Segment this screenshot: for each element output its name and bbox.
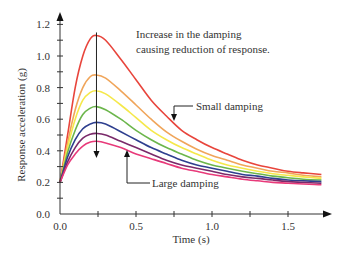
- y-tick-label: 0.6: [36, 113, 50, 125]
- y-tick-label: 0.0: [36, 208, 50, 220]
- x-tick-label: 1.0: [205, 220, 219, 232]
- x-axis-arrow-icon: [323, 211, 332, 218]
- annotation-line2: causing reduction of response.: [136, 43, 270, 55]
- y-axis-arrow-icon: [57, 12, 64, 21]
- y-tick-label: 0.2: [36, 176, 50, 188]
- y-axis-title: Response acceleration (g): [15, 68, 28, 182]
- x-tick-label: 0.0: [53, 220, 67, 232]
- series-line: [60, 35, 321, 182]
- annotation-line1: Increase in the damping: [136, 28, 242, 40]
- small-damping-label: Small damping: [196, 100, 263, 112]
- peak-down-arrow-icon: [93, 151, 99, 158]
- response-curves: [60, 35, 321, 184]
- y-tick-label: 0.4: [36, 145, 50, 157]
- x-tick-label: 1.5: [281, 220, 295, 232]
- small-damping-arrow-icon: [171, 114, 177, 121]
- y-tick-label: 1.2: [36, 18, 50, 30]
- y-tick-label: 1.0: [36, 50, 50, 62]
- large-damping-label: Large damping: [152, 177, 219, 189]
- large-damping-leader: [127, 155, 150, 183]
- small-damping-leader: [174, 106, 193, 117]
- x-tick-label: 0.5: [129, 220, 143, 232]
- y-tick-label: 0.8: [36, 82, 50, 94]
- y-ticks: 0.00.20.40.60.81.01.2: [36, 18, 63, 220]
- x-axis-title: Time (s): [172, 233, 210, 246]
- series-line: [60, 122, 321, 182]
- damping-response-chart: 0.00.20.40.60.81.01.2 0.00.51.01.5 Incre…: [0, 0, 341, 262]
